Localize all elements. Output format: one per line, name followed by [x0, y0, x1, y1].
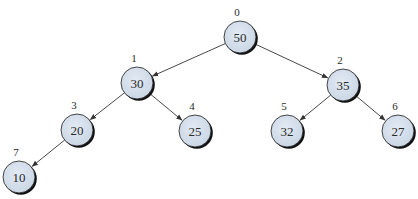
tree-node: 301 — [121, 52, 155, 101]
node-value: 25 — [189, 124, 202, 139]
node-index-label: 3 — [71, 99, 77, 111]
node-value: 35 — [337, 78, 350, 93]
node-index-label: 2 — [337, 54, 343, 66]
tree-node: 107 — [3, 146, 37, 195]
node-value: 20 — [71, 123, 84, 138]
node-value: 32 — [281, 124, 294, 139]
node-value: 27 — [392, 124, 406, 139]
tree-node: 203 — [61, 99, 95, 148]
nodes-layer: 500301352203254325276107 — [3, 6, 416, 195]
edge-arrow — [90, 93, 124, 120]
tree-node: 352 — [327, 54, 361, 103]
edge-arrow — [153, 44, 226, 77]
edge-arrow — [355, 95, 385, 120]
node-index-label: 4 — [189, 100, 195, 112]
heap-tree-diagram: 500301352203254325276107 — [0, 0, 418, 199]
edge-arrow — [32, 140, 64, 166]
tree-node: 254 — [179, 100, 213, 149]
edge-arrow — [255, 44, 328, 78]
tree-node: 325 — [271, 100, 305, 149]
node-index-label: 6 — [392, 100, 398, 112]
node-value: 50 — [234, 30, 247, 45]
node-value: 30 — [131, 76, 144, 91]
tree-node: 276 — [382, 100, 416, 149]
edge-arrow — [149, 93, 182, 120]
node-index-label: 7 — [13, 146, 19, 158]
node-index-label: 1 — [131, 52, 137, 64]
edge-arrow — [300, 95, 331, 120]
node-index-label: 5 — [281, 100, 287, 112]
edges-layer — [32, 44, 385, 167]
node-value: 10 — [13, 170, 26, 185]
tree-node: 500 — [224, 6, 258, 55]
node-index-label: 0 — [234, 6, 240, 18]
